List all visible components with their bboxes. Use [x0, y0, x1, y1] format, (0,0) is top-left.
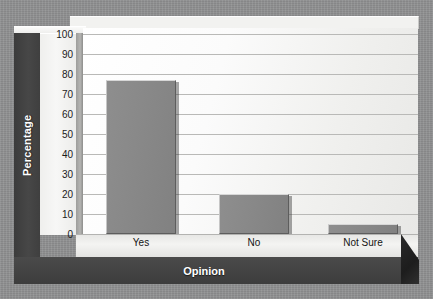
y-axis-tick-panel: 1009080706050403020100	[40, 33, 76, 235]
y-axis-tick-label: 90	[43, 50, 73, 60]
x-axis-title: Opinion	[14, 257, 394, 284]
y-axis-tick-label: 100	[43, 30, 73, 40]
y-axis-3d-wall	[76, 33, 83, 234]
y-axis-tick-label: 50	[43, 130, 73, 140]
plot-area	[83, 28, 418, 234]
bar-yes[interactable]	[106, 80, 176, 234]
y-axis-tick-label: 0	[43, 230, 73, 240]
y-axis-tick-label: 80	[43, 70, 73, 80]
y-axis-tick-label: 30	[43, 170, 73, 180]
y-axis-tick-label: 60	[43, 110, 73, 120]
x-axis-tick-label: No	[204, 237, 304, 248]
bar-chart-figure: 1009080706050403020100 YesNoNot Sure Per…	[0, 0, 433, 299]
gridline	[83, 54, 418, 55]
y-axis-tick-label: 70	[43, 90, 73, 100]
gridline	[83, 34, 418, 35]
y-axis-tick-label: 10	[43, 210, 73, 220]
bar-no[interactable]	[219, 194, 289, 234]
bar-not-sure[interactable]	[328, 224, 398, 234]
y-axis-title: Percentage	[14, 33, 40, 257]
x-axis-tick-label: Not Sure	[313, 237, 413, 248]
y-axis-tick-label: 40	[43, 150, 73, 160]
gridline	[83, 74, 418, 75]
y-axis-tick-label: 20	[43, 190, 73, 200]
x-axis-tick-label: Yes	[91, 237, 191, 248]
